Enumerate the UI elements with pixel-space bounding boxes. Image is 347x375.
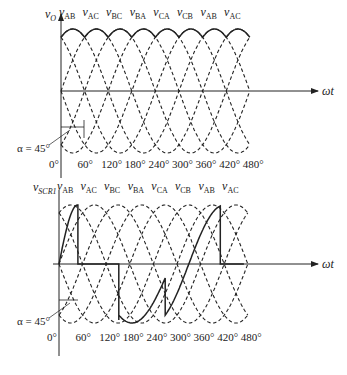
phase-label: vCA — [153, 5, 170, 21]
top-phase-labels: vABvACvBCvBAvCAvCBvABvAC — [59, 5, 241, 21]
top-ylabel: vO — [45, 7, 56, 23]
tick-label: 180° — [123, 331, 144, 343]
phase-label: vBA — [130, 5, 147, 21]
bottom-phase-labels: vABvACvBCvBAvCAvCBvABvAC — [57, 179, 239, 195]
tick-label: 120° — [101, 158, 122, 170]
phase-label: vAC — [83, 5, 99, 21]
rectifier-waveform-figure: vO ωt vABvACvBCvBAvCAvCBvABvAC 0°60°120°… — [0, 0, 347, 375]
phase-label: vAC — [81, 179, 97, 195]
phase-label: vAC — [222, 179, 238, 195]
phase-label: vAB — [199, 179, 215, 195]
phase-label: vAC — [224, 5, 240, 21]
phase-label: vBC — [104, 179, 120, 195]
tick-label: 240° — [146, 331, 167, 343]
phase-label: vCB — [175, 179, 191, 195]
tick-label: 360° — [194, 331, 215, 343]
tick-label: 60° — [78, 158, 93, 170]
top-xlabel: ωt — [322, 84, 334, 98]
tick-label: 0° — [49, 158, 59, 170]
tick-label: 480° — [243, 158, 264, 170]
phase-label: vCA — [151, 179, 168, 195]
top-output-waveform — [61, 29, 250, 37]
phase-label: vBC — [106, 5, 122, 21]
tick-label: 420° — [219, 158, 240, 170]
tick-label: 180° — [125, 158, 146, 170]
top-alpha-label: α = 45° — [17, 142, 50, 154]
tick-label: 120° — [99, 331, 120, 343]
phase-label: vAB — [59, 5, 75, 21]
phase-label: vAB — [201, 5, 217, 21]
bottom-tick-labels: 0°60°120°180°240°300°360°420°480° — [47, 331, 262, 343]
bottom-ylabel: vSCR1 — [33, 180, 57, 196]
tick-label: 300° — [172, 158, 193, 170]
bottom-xlabel: ωt — [322, 257, 334, 271]
tick-label: 300° — [170, 331, 191, 343]
tick-label: 0° — [47, 331, 57, 343]
phase-label: vBA — [128, 179, 145, 195]
top-tick-labels: 0°60°120°180°240°300°360°420°480° — [49, 158, 264, 170]
bottom-panel: vSCR1 ωt vABvACvBCvBAvCAvCBvABvAC 0°60°1… — [17, 179, 334, 356]
tick-label: 360° — [196, 158, 217, 170]
phase-label: vCB — [177, 5, 193, 21]
tick-label: 240° — [148, 158, 169, 170]
tick-label: 480° — [241, 331, 262, 343]
top-panel: vO ωt vABvACvBCvBAvCAvCBvABvAC 0°60°120°… — [17, 5, 334, 178]
tick-label: 60° — [76, 331, 91, 343]
bottom-alpha-label: α = 45° — [17, 315, 50, 327]
tick-label: 420° — [217, 331, 238, 343]
phase-label: vAB — [57, 179, 73, 195]
